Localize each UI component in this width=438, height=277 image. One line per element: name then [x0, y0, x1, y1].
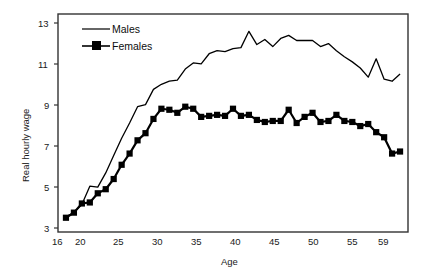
data-point-marker — [278, 118, 284, 124]
data-point-marker — [246, 112, 252, 118]
data-point-marker — [294, 120, 300, 126]
data-point-marker — [166, 107, 172, 113]
data-point-marker — [182, 104, 188, 110]
data-point-marker — [111, 176, 117, 182]
data-point-marker — [190, 106, 196, 112]
data-point-marker — [198, 114, 204, 120]
data-point-marker — [270, 118, 276, 124]
data-point-marker — [222, 113, 228, 119]
data-point-marker — [333, 112, 339, 118]
data-point-marker — [71, 210, 77, 216]
data-point-marker — [365, 121, 371, 127]
data-point-marker — [397, 148, 403, 154]
data-point-marker — [79, 200, 85, 206]
data-point-marker — [357, 123, 363, 129]
data-point-marker — [381, 134, 387, 140]
data-point-marker — [262, 119, 268, 125]
data-point-marker — [254, 117, 260, 123]
data-point-marker — [103, 186, 109, 192]
data-point-marker — [174, 110, 180, 116]
legend-sample-females — [82, 41, 110, 50]
data-point-marker — [309, 110, 315, 116]
data-point-marker — [317, 119, 323, 125]
data-point-marker — [341, 118, 347, 124]
data-point-marker — [95, 190, 101, 196]
data-point-marker — [150, 116, 156, 122]
data-point-marker — [134, 137, 140, 143]
data-point-marker — [63, 215, 69, 221]
data-point-marker — [238, 113, 244, 119]
plot-canvas — [0, 0, 438, 277]
data-point-marker — [286, 107, 292, 113]
data-point-marker — [301, 114, 307, 120]
data-point-marker — [158, 106, 164, 112]
data-point-marker — [230, 106, 236, 112]
data-point-marker — [119, 162, 125, 168]
data-point-marker — [373, 129, 379, 135]
data-point-marker — [206, 113, 212, 119]
data-point-marker — [325, 118, 331, 124]
data-point-marker — [389, 150, 395, 156]
data-point-marker — [126, 150, 132, 156]
data-point-marker — [214, 112, 220, 118]
data-point-marker — [349, 119, 355, 125]
chart-figure: Real hourly wage Age 13 11 9 7 5 3 16 20… — [0, 0, 438, 277]
data-point-marker — [142, 130, 148, 136]
data-point-marker — [87, 199, 93, 205]
series-line-females — [63, 104, 403, 221]
